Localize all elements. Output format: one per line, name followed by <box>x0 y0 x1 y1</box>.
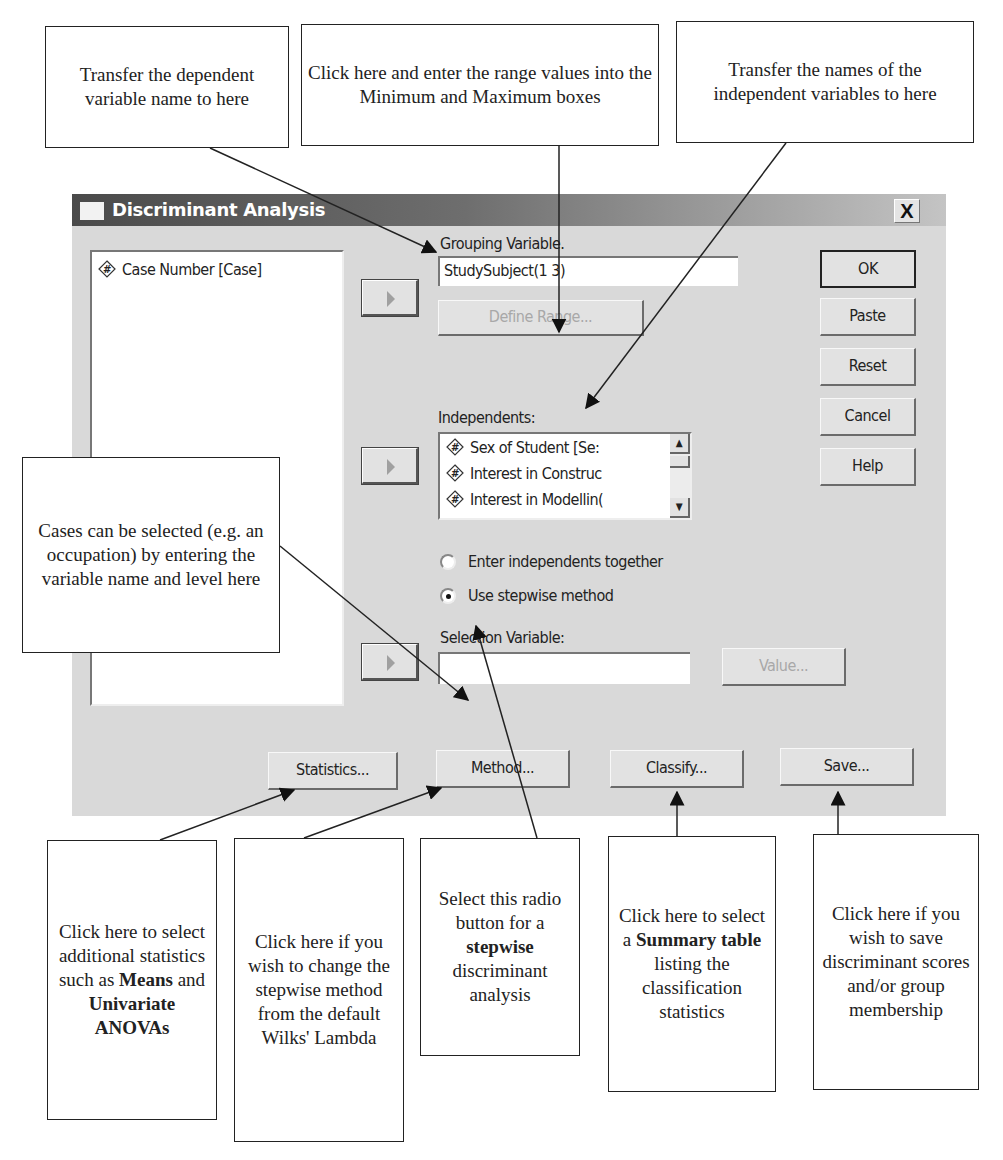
dialog-title: Discriminant Analysis <box>112 199 325 220</box>
radio-button-selected-icon[interactable] <box>440 588 456 604</box>
radio-enter-together[interactable]: Enter independents together <box>440 552 663 571</box>
transfer-grouping-button[interactable] <box>362 280 418 316</box>
radio-stepwise[interactable]: Use stepwise method <box>440 586 613 605</box>
callout-text: Click here to select additional statisti… <box>54 920 210 1040</box>
statistics-button[interactable]: Statistics... <box>268 752 398 790</box>
selection-variable-label: Selection Variable: <box>440 628 564 647</box>
method-button[interactable]: Method... <box>436 750 570 788</box>
selection-variable-field[interactable] <box>438 652 690 684</box>
value-button[interactable]: Value... <box>722 648 846 686</box>
radio-button-icon[interactable] <box>440 554 456 570</box>
list-item[interactable]: # Interest in Modellin( <box>440 486 690 512</box>
callout-save: Click here if you wish to save discrimin… <box>813 834 979 1090</box>
callout-method: Click here if you wish to change the ste… <box>234 838 404 1142</box>
callout-selection-cases: Cases can be selected (e.g. an occupatio… <box>22 457 280 653</box>
variable-label: Sex of Student [Se: <box>470 438 599 457</box>
cancel-button[interactable]: Cancel <box>820 398 916 436</box>
window-icon <box>80 202 104 220</box>
arrow-right-icon <box>387 655 395 671</box>
callout-stepwise: Select this radio button for a stepwise … <box>420 838 580 1056</box>
numeric-variable-icon: # <box>446 438 464 456</box>
arrow-right-icon <box>387 291 395 307</box>
svg-text:#: # <box>451 468 459 479</box>
scroll-thumb[interactable] <box>670 456 690 468</box>
callout-classify: Click here to select a Summary table lis… <box>608 836 776 1092</box>
scroll-up-icon[interactable]: ▲ <box>670 434 690 454</box>
callout-text: Select this radio button for a stepwise … <box>427 887 573 1007</box>
transfer-independents-button[interactable] <box>362 448 418 484</box>
reset-button[interactable]: Reset <box>820 348 916 386</box>
title-bar[interactable]: Discriminant Analysis X <box>72 194 946 226</box>
grouping-variable-field[interactable]: StudySubject(1 3) <box>438 256 738 286</box>
callout-dependent-variable: Transfer the dependent variable name to … <box>45 26 289 148</box>
define-range-button[interactable]: Define Range... <box>438 300 644 336</box>
paste-button[interactable]: Paste <box>820 298 916 336</box>
transfer-selection-button[interactable] <box>362 644 418 680</box>
svg-text:#: # <box>103 264 111 275</box>
save-button[interactable]: Save... <box>780 748 914 786</box>
variable-label: Case Number [Case] <box>122 260 262 279</box>
list-item[interactable]: # Case Number [Case] <box>92 256 342 282</box>
independents-scrollbar[interactable]: ▲ ▼ <box>670 434 690 518</box>
independents-list[interactable]: # Sex of Student [Se: # Interest in Cons… <box>438 432 692 520</box>
callout-independents: Transfer the names of the independent va… <box>676 21 974 143</box>
variable-label: Interest in Modellin( <box>470 490 603 509</box>
independents-label: Independents: <box>438 408 535 427</box>
radio-label: Enter independents together <box>468 552 663 571</box>
close-button[interactable]: X <box>894 199 920 223</box>
scroll-down-icon[interactable]: ▼ <box>670 498 690 518</box>
numeric-variable-icon: # <box>446 490 464 508</box>
radio-label: Use stepwise method <box>468 586 613 605</box>
ok-button[interactable]: OK <box>820 250 916 288</box>
svg-text:#: # <box>451 494 459 505</box>
list-item[interactable]: # Sex of Student [Se: <box>440 434 690 460</box>
numeric-variable-icon: # <box>446 464 464 482</box>
numeric-variable-icon: # <box>98 260 116 278</box>
help-button[interactable]: Help <box>820 448 916 486</box>
arrow-right-icon <box>387 459 395 475</box>
callout-statistics: Click here to select additional statisti… <box>47 840 217 1120</box>
callout-define-range: Click here and enter the range values in… <box>301 24 659 146</box>
svg-text:#: # <box>451 442 459 453</box>
callout-text: Click here to select a Summary table lis… <box>615 904 769 1024</box>
classify-button[interactable]: Classify... <box>610 750 744 788</box>
grouping-variable-label: Grouping Variable. <box>440 234 564 253</box>
list-item[interactable]: # Interest in Construc <box>440 460 690 486</box>
variable-label: Interest in Construc <box>470 464 602 483</box>
